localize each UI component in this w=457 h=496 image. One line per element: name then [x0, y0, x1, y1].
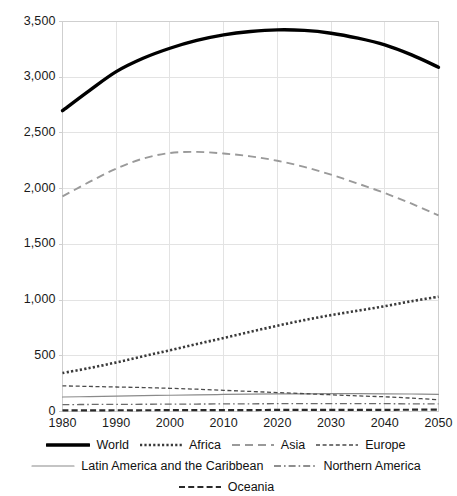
- legend-item-europe[interactable]: Europe: [315, 438, 405, 452]
- x-axis-tick-label: 2010: [194, 416, 254, 430]
- y-axis-tick-label: 3,000: [24, 69, 56, 83]
- legend-item-asia[interactable]: Asia: [231, 438, 305, 452]
- legend-label: World: [96, 438, 128, 452]
- legend-item-africa[interactable]: Africa: [139, 438, 221, 452]
- series-line-northern-america: [63, 404, 439, 405]
- x-axis-tick-label: 2040: [355, 416, 415, 430]
- legend-swatch-solid-thin: [31, 460, 75, 472]
- y-axis-tick-label: 3,500: [24, 14, 56, 28]
- series-line-oceania: [63, 410, 439, 411]
- chart-legend: WorldAfricaAsiaEuropeLatin America and t…: [0, 434, 452, 496]
- x-axis-tick-label: 1980: [33, 416, 93, 430]
- y-axis-tick-label: 1,000: [24, 292, 56, 306]
- legend-item-world[interactable]: World: [46, 438, 128, 452]
- legend-label: Latin America and the Caribbean: [81, 459, 263, 473]
- series-line-africa: [63, 297, 439, 373]
- legend-swatch-dash-dot: [273, 460, 317, 472]
- legend-swatch-dashed: [231, 439, 275, 451]
- legend-row: Latin America and the CaribbeanNorthern …: [0, 455, 452, 476]
- legend-label: Europe: [365, 438, 405, 452]
- legend-label: Asia: [281, 438, 305, 452]
- legend-row: WorldAfricaAsiaEurope: [0, 434, 452, 455]
- y-axis-tick-label: 2,500: [24, 125, 56, 139]
- legend-swatch-dotted: [139, 439, 183, 451]
- y-axis-tick-label: 2,000: [24, 181, 56, 195]
- legend-label: Northern America: [323, 459, 420, 473]
- x-axis-tick-label: 2020: [247, 416, 307, 430]
- x-axis-tick-label: 2000: [140, 416, 200, 430]
- series-line-world: [63, 30, 439, 111]
- legend-row: Oceania: [0, 476, 452, 496]
- x-axis-tick-label: 2050: [409, 416, 457, 430]
- legend-swatch-solid-thick: [46, 439, 90, 451]
- y-axis-tick-label: 1,500: [24, 236, 56, 250]
- series-line-asia: [63, 152, 439, 216]
- legend-label: Oceania: [228, 480, 275, 494]
- legend-label: Africa: [189, 438, 221, 452]
- legend-swatch-dashed-bold: [178, 481, 222, 493]
- x-axis-tick-label: 2030: [301, 416, 361, 430]
- legend-item-latin-america-and-the-caribbean[interactable]: Latin America and the Caribbean: [31, 459, 263, 473]
- legend-swatch-dashed-fine: [315, 439, 359, 451]
- legend-item-oceania[interactable]: Oceania: [178, 480, 275, 494]
- y-axis-tick-label: 500: [34, 348, 55, 362]
- legend-item-northern-america[interactable]: Northern America: [273, 459, 420, 473]
- series-line-europe: [63, 386, 439, 400]
- x-axis-tick-label: 1990: [86, 416, 146, 430]
